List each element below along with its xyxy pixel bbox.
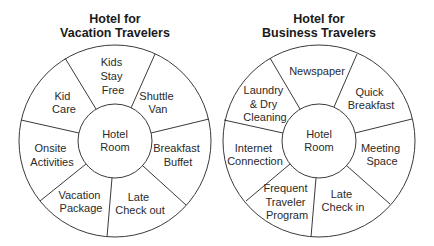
segment-late-check-out: Late Check out bbox=[115, 191, 165, 216]
spoke bbox=[151, 119, 209, 133]
hub-label: Room bbox=[100, 141, 129, 153]
spoke bbox=[355, 119, 412, 133]
hub-label: Hotel bbox=[306, 128, 332, 140]
segment-internet-connection: Internet Connection bbox=[227, 142, 283, 167]
segment-shuttle-van: Shuttle Van bbox=[139, 90, 176, 115]
spoke bbox=[21, 120, 79, 133]
vacation-labels: Hotel Room Kids Stay Free Shuttle Van Br… bbox=[30, 56, 202, 216]
segment-onsite-activities: Onsite Activities bbox=[30, 142, 74, 168]
hub-label: Hotel bbox=[102, 128, 128, 140]
segment-kids-stay-free: Kids Stay Free bbox=[100, 56, 125, 96]
segment-kid-care: Kid Care bbox=[52, 90, 76, 115]
segment-breakfast-buffet: Breakfast Buffet bbox=[153, 142, 203, 168]
business-labels: Hotel Room Newspaper Quick Breakfast Mee… bbox=[227, 65, 403, 221]
diagrams-canvas: Hotel Room Kids Stay Free Shuttle Van Br… bbox=[0, 0, 434, 246]
spoke bbox=[107, 178, 112, 237]
segment-laundry-dry-cleaning: Laundry & Dry Cleaning bbox=[243, 84, 286, 123]
segment-vacation-package: Vacation Package bbox=[58, 189, 103, 214]
segment-quick-breakfast: Quick Breakfast bbox=[348, 86, 394, 111]
hub-label: Room bbox=[304, 141, 333, 153]
segment-meeting-space: Meeting Space bbox=[361, 142, 403, 167]
segment-frequent-traveler-program: Frequent Traveler Program bbox=[263, 182, 310, 221]
segment-newspaper: Newspaper bbox=[289, 65, 345, 77]
spoke bbox=[311, 178, 316, 237]
segment-late-check-in: Late Check in bbox=[322, 188, 365, 213]
